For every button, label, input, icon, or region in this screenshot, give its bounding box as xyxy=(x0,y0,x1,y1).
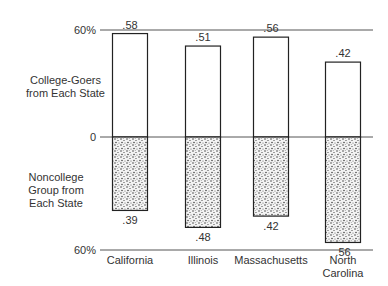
upper-series-label: College-Goers from Each State xyxy=(18,74,113,100)
bar-chart: 60%060%CaliforniaIllinoisMassachusettsNo… xyxy=(0,0,388,286)
value-label-college: .51 xyxy=(195,31,210,43)
zero-axis-label: 0 xyxy=(90,131,96,143)
category-label: California xyxy=(107,254,154,266)
bars: .58.39.51.48.56.42.42.56 xyxy=(113,19,361,259)
top-axis-label: 60% xyxy=(74,24,96,36)
bar-noncollege-1 xyxy=(186,137,221,227)
upper-label-line: from Each State xyxy=(18,87,113,100)
category-label: Illinois xyxy=(188,254,219,266)
lower-label-line: Group from xyxy=(14,184,98,197)
value-label-noncollege: .56 xyxy=(335,246,350,258)
bar-noncollege-0 xyxy=(113,137,148,210)
lower-series-label: Noncollege Group from Each State xyxy=(14,171,98,210)
bottom-axis-label: 60% xyxy=(74,244,96,256)
value-label-noncollege: .39 xyxy=(122,214,137,226)
lower-label-line: Each State xyxy=(14,197,98,210)
value-label-college: .56 xyxy=(263,22,278,34)
value-label-noncollege: .48 xyxy=(195,231,210,243)
category-label: Massachusetts xyxy=(234,254,308,266)
value-label-college: .58 xyxy=(122,19,137,31)
bar-college-3 xyxy=(326,62,361,137)
lower-label-line: Noncollege xyxy=(14,171,98,184)
bar-college-1 xyxy=(186,46,221,137)
bar-noncollege-2 xyxy=(254,137,289,216)
upper-label-line: College-Goers xyxy=(18,74,113,87)
bar-college-0 xyxy=(113,34,148,137)
bar-college-2 xyxy=(254,37,289,137)
bar-noncollege-3 xyxy=(326,137,361,242)
category-label: Carolina xyxy=(323,267,365,279)
value-label-college: .42 xyxy=(335,47,350,59)
value-label-noncollege: .42 xyxy=(263,220,278,232)
